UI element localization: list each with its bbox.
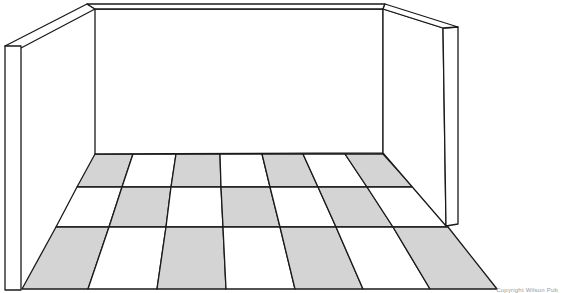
back-wall: [95, 9, 383, 154]
top-rim: [87, 4, 385, 9]
floor-tile: [157, 227, 226, 289]
left-wall-edge: [5, 46, 21, 290]
room-diagram: [0, 0, 562, 293]
left-wall-top: [5, 4, 95, 48]
copyright-credit: Copyright Wilson Pub: [496, 287, 558, 293]
floor-tile: [166, 187, 223, 227]
floor-tile: [220, 154, 270, 187]
right-wall-edge: [443, 27, 458, 226]
floor-tile: [171, 154, 221, 187]
